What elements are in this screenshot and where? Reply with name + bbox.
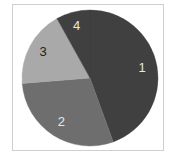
slice-label-1: 1 (139, 60, 146, 75)
pie-slices (22, 10, 158, 146)
slice-label-2: 2 (58, 114, 65, 129)
slice-label-3: 3 (40, 44, 47, 59)
slice-label-4: 4 (73, 18, 80, 33)
pie-chart: 1 2 3 4 (0, 0, 171, 160)
